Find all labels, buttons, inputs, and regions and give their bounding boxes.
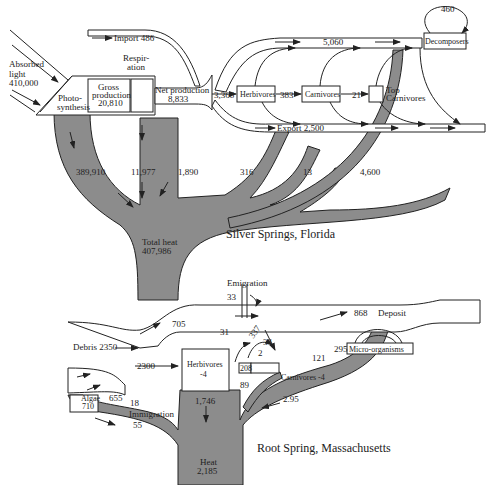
- svg-text:Herbivores: Herbivores: [187, 360, 223, 369]
- svg-text:1,746: 1,746: [195, 396, 216, 406]
- lower-channel: [68, 368, 125, 395]
- svg-text:Carnivores: Carnivores: [305, 90, 340, 99]
- svg-text:2: 2: [258, 348, 263, 358]
- svg-text:868: 868: [354, 308, 368, 318]
- svg-text:-4: -4: [200, 370, 207, 379]
- svg-text:316: 316: [240, 167, 254, 177]
- absorbed-light-label: Absorbed: [9, 59, 44, 69]
- svg-text:407,986: 407,986: [142, 246, 172, 256]
- svg-text:31: 31: [220, 327, 229, 337]
- svg-text:710: 710: [82, 402, 94, 411]
- svg-text:410,000: 410,000: [9, 78, 39, 88]
- immigration-label: Immigration: [129, 409, 174, 419]
- export-pipe: [212, 100, 485, 132]
- caption-root-spring: Root Spring, Massachusetts: [257, 441, 391, 455]
- deposit-label: Deposit: [378, 308, 406, 318]
- svg-text:8,833: 8,833: [168, 94, 189, 104]
- svg-text:Herbivores: Herbivores: [240, 90, 276, 99]
- svg-text:13: 13: [303, 167, 313, 177]
- svg-text:2300: 2300: [137, 361, 156, 371]
- svg-text:21: 21: [352, 90, 361, 100]
- svg-text:33: 33: [227, 292, 237, 302]
- svg-text:synthesis: synthesis: [57, 102, 91, 112]
- svg-text:5,060: 5,060: [323, 37, 344, 47]
- svg-text:Carnivores -4: Carnivores -4: [281, 373, 325, 382]
- carnivores-box-b: [251, 363, 279, 373]
- svg-text:4,600: 4,600: [360, 167, 381, 177]
- svg-text:655: 655: [109, 393, 123, 403]
- svg-text:20,810: 20,810: [98, 98, 123, 108]
- diagram-root-spring: Emigration 33 705 31 Debris 2350 868 Dep…: [68, 278, 480, 485]
- svg-text:121: 121: [312, 353, 326, 363]
- svg-text:460: 460: [441, 4, 455, 14]
- svg-text:ation: ation: [127, 62, 145, 72]
- svg-text:Decomposers: Decomposers: [425, 37, 469, 46]
- svg-text:34: 34: [263, 337, 273, 347]
- diagram-silver-springs: Absorbed light 410,000 Import 486 Photo-…: [9, 4, 485, 300]
- svg-text:3,368: 3,368: [214, 90, 235, 100]
- svg-text:383: 383: [280, 90, 294, 100]
- upper-channel: [68, 300, 480, 348]
- svg-text:Micro-organisms: Micro-organisms: [349, 345, 404, 354]
- svg-text:89: 89: [240, 380, 250, 390]
- svg-text:208: 208: [240, 364, 252, 373]
- svg-text:1,890: 1,890: [178, 167, 199, 177]
- energy-flow-figure: Absorbed light 410,000 Import 486 Photo-…: [0, 0, 497, 485]
- svg-text:295: 295: [334, 344, 348, 354]
- svg-text:11,977: 11,977: [131, 167, 156, 177]
- svg-text:705: 705: [172, 319, 186, 329]
- export-label: Export 2,500: [277, 123, 324, 133]
- svg-text:55: 55: [133, 420, 143, 430]
- svg-text:2.95: 2.95: [283, 394, 299, 404]
- debris-label: Debris 2350: [73, 342, 118, 352]
- top-carnivores-box: [369, 86, 383, 102]
- svg-text:18: 18: [130, 398, 140, 408]
- respiration-box: [131, 79, 153, 112]
- heat-tree-a: [54, 112, 450, 300]
- svg-text:Carnivores: Carnivores: [386, 93, 426, 103]
- svg-text:389,910: 389,910: [76, 167, 106, 177]
- import-label: Import 486: [114, 33, 155, 43]
- caption-silver-springs: Silver Springs, Florida: [226, 227, 336, 241]
- emigration-label: Emigration: [227, 278, 268, 288]
- svg-text:2,185: 2,185: [197, 466, 218, 476]
